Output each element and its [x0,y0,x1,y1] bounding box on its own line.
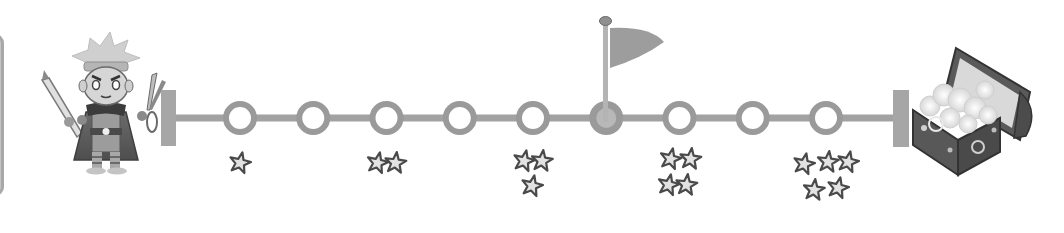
path-node[interactable] [373,104,401,132]
treasure-chest-icon[interactable] [913,48,1032,175]
flag-pole-knob [600,17,612,26]
star-icon [818,151,839,172]
path-node[interactable] [666,104,694,132]
path-node[interactable] [519,104,547,132]
path-node[interactable] [812,104,840,132]
path-node-ring [373,104,401,132]
path-node[interactable] [446,104,474,132]
star-icon [515,150,536,171]
path-node[interactable] [226,104,254,132]
star-icon [231,152,252,173]
side-panel-edge[interactable] [0,34,4,196]
path-end-cap [893,90,909,147]
progress-path-svg [0,0,1064,233]
star-icon [795,153,816,174]
level-progress-screen: Level progress path [0,0,1064,233]
star-icon [839,151,860,172]
star-icon [523,175,544,196]
path-node-ring [446,104,474,132]
star-icon [681,148,702,169]
star-icon [532,150,553,171]
path-node-ring [226,104,254,132]
star-icon [677,174,698,195]
path-node-ring [739,104,767,132]
path-node-ring [666,104,694,132]
star-icon [661,148,682,169]
path-node-ring [519,104,547,132]
star-icon [659,174,680,195]
path-node-ring [812,104,840,132]
star-icon [829,177,850,198]
path-node[interactable] [299,104,327,132]
flag-icon [610,28,664,68]
path-start-cap [161,90,176,146]
star-icon [804,179,825,200]
path-node-ring [299,104,327,132]
hero-character[interactable] [42,32,166,175]
pencil-icon [42,70,82,137]
path-node[interactable] [739,104,767,132]
flag-pole [603,22,608,122]
star-icon [386,152,407,173]
star-icon [368,152,389,173]
